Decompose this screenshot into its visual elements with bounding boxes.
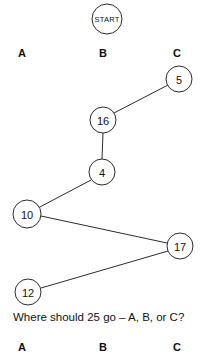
node-16-label: 16 — [97, 115, 109, 127]
column-label-b: B — [99, 47, 107, 59]
node-17: 17 — [167, 233, 193, 259]
column-label-c: C — [173, 47, 181, 59]
edge-n10-n17 — [41, 216, 167, 243]
node-12: 12 — [15, 279, 41, 305]
node-16: 16 — [90, 107, 116, 133]
answer-option-a[interactable]: A — [18, 341, 26, 353]
node-10-label: 10 — [21, 209, 33, 221]
node-10: 10 — [13, 200, 41, 228]
start-node-label: START — [95, 15, 120, 24]
question-text: Where should 25 go – A, B, or C? — [13, 311, 184, 323]
column-label-a: A — [18, 47, 26, 59]
edge-n17-n12 — [41, 251, 168, 288]
edge-n4-n10 — [38, 180, 91, 208]
edge-n16-n4 — [102, 133, 103, 159]
node-4: 4 — [89, 159, 115, 185]
answer-option-c[interactable]: C — [173, 341, 181, 353]
node-12-label: 12 — [22, 287, 34, 299]
node-5: 5 — [166, 66, 192, 92]
diagram-canvas: START5164101712 ABC Where should 25 go –… — [0, 0, 206, 356]
edge-n16-n5 — [114, 85, 168, 113]
start-node: START — [92, 4, 122, 34]
node-5-label: 5 — [176, 74, 182, 86]
node-17-label: 17 — [174, 241, 186, 253]
answer-option-b[interactable]: B — [99, 341, 107, 353]
node-4-label: 4 — [99, 167, 105, 179]
